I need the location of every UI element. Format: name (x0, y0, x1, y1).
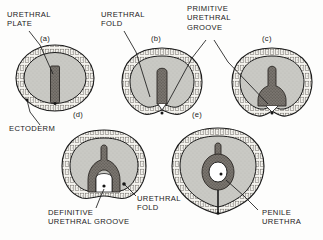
panel-c-section (232, 48, 312, 116)
label-urethral-plate: URETHRAL PLATE (7, 10, 51, 29)
panel-letter-d: (d) (73, 110, 83, 119)
panel-letter-c: (c) (262, 34, 272, 43)
panel-b-urethral-plate (157, 68, 167, 104)
panel-b-groove-dot (161, 112, 164, 115)
panel-e-lumen-dot (220, 173, 223, 176)
label-definitive-urethral-groove: DEFINITIVE URETHRAL GROOVE (48, 208, 129, 227)
label-primitive-urethral-groove: PRIMITIVE URETHRAL GROOVE (187, 4, 231, 32)
panel-c-groove-dot (271, 112, 274, 115)
panel-e-penile-urethra-lumen (209, 162, 227, 182)
panel-e-raphe-dot (216, 211, 219, 214)
panel-d-section (62, 130, 146, 199)
label-urethral-fold-top: URETHRAL FOLD (101, 10, 145, 29)
panel-letter-e: (e) (192, 110, 202, 119)
panel-letter-b: (b) (151, 34, 161, 43)
panel-b-section (122, 48, 202, 115)
panel-a-ventral-marker (54, 102, 57, 105)
ectoderm-anchor-dot (26, 99, 29, 102)
panel-letter-a: (a) (40, 34, 50, 43)
label-penile-urethra: PENILE URETHRA (262, 208, 301, 227)
label-ectoderm: ECTODERM (9, 124, 55, 133)
embryology-figure: URETHRAL PLATE URETHRAL FOLD PRIMITIVE U… (0, 0, 323, 240)
label-urethral-fold-bottom: URETHRAL FOLD (137, 194, 181, 213)
panel-d-groove-dot (102, 184, 105, 187)
